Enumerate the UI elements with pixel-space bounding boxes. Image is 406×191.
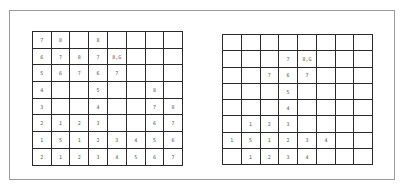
grid-cell: 1 <box>70 132 89 149</box>
grid-cell: 6 <box>89 65 108 82</box>
grid-cell: 3 <box>298 132 317 148</box>
grid-cell <box>223 100 242 116</box>
grid-cell <box>335 35 354 51</box>
grid-cell <box>241 35 260 51</box>
grid-cell <box>223 67 242 83</box>
grid-cell <box>335 51 354 67</box>
grid-cell <box>260 35 279 51</box>
grid-cell: 7 <box>70 65 89 82</box>
grid-row: 21234567 <box>33 148 183 165</box>
grid-cell: 6 <box>164 132 183 149</box>
grid-cell: 4 <box>33 82 52 99</box>
grid-cell <box>260 51 279 67</box>
grid-cell <box>317 149 336 165</box>
grid-cell: 2 <box>260 116 279 132</box>
grid-cell: 3 <box>33 98 52 115</box>
grid-cell: 4 <box>298 149 317 165</box>
grid-cell <box>354 83 373 99</box>
grid-cell <box>354 116 373 132</box>
grid-row: 151234 <box>223 132 373 148</box>
grid-cell <box>51 98 70 115</box>
grid-cell: 6 <box>51 65 70 82</box>
grid-cell <box>354 67 373 83</box>
grid-cell: 7 <box>298 67 317 83</box>
grid-cell: 4 <box>126 132 145 149</box>
grid-row <box>223 35 373 51</box>
grid-cell <box>223 35 242 51</box>
grid-cell: 7 <box>33 32 52 49</box>
grid-cell: 6 <box>145 148 164 165</box>
grid-cell: 1 <box>260 132 279 148</box>
grid-cell: 2 <box>70 115 89 132</box>
grid-cell <box>335 149 354 165</box>
grid-cell <box>241 100 260 116</box>
grid-cell: 6 <box>145 115 164 132</box>
grid-cell: 3 <box>279 149 298 165</box>
grid-cell: 1 <box>51 115 70 132</box>
right-grid: 78,G767541231512341234 <box>222 34 373 165</box>
grid-cell: 5 <box>279 83 298 99</box>
grid-cell <box>354 35 373 51</box>
grid-cell: 4 <box>107 148 126 165</box>
left-grid: 78867878,G567674583478212367151234562123… <box>32 31 183 166</box>
grid-cell <box>126 48 145 65</box>
left-grid-body: 78867878,G567674583478212367151234562123… <box>33 32 183 166</box>
grid-row: 1234 <box>223 149 373 165</box>
grid-cell <box>164 32 183 49</box>
grid-cell <box>126 82 145 99</box>
grid-cell: 8,G <box>107 48 126 65</box>
grid-row: 56767 <box>33 65 183 82</box>
grid-cell <box>223 83 242 99</box>
grid-cell: 3 <box>89 115 108 132</box>
grid-row: 3478 <box>33 98 183 115</box>
grid-cell: 3 <box>89 148 108 165</box>
grid-cell <box>70 98 89 115</box>
grid-cell <box>70 32 89 49</box>
grid-row: 4 <box>223 100 373 116</box>
grid-row: 15123456 <box>33 132 183 149</box>
grid-cell <box>335 67 354 83</box>
grid-cell <box>145 65 164 82</box>
grid-cell: 6 <box>33 48 52 65</box>
grid-cell <box>164 82 183 99</box>
grid-cell <box>107 32 126 49</box>
grid-row: 67878,G <box>33 48 183 65</box>
grid-cell <box>335 100 354 116</box>
grid-cell <box>335 116 354 132</box>
grid-cell: 5 <box>89 82 108 99</box>
grid-cell: 2 <box>33 115 52 132</box>
grid-cell <box>241 83 260 99</box>
grid-cell <box>298 116 317 132</box>
grid-cell: 7 <box>107 65 126 82</box>
grid-row: 767 <box>223 67 373 83</box>
grid-cell <box>317 67 336 83</box>
grid-cell: 7 <box>260 67 279 83</box>
grid-cell <box>354 51 373 67</box>
grid-cell: 7 <box>89 48 108 65</box>
grid-cell: 8,G <box>298 51 317 67</box>
grid-cell <box>354 132 373 148</box>
grid-cell <box>317 100 336 116</box>
grid-cell <box>317 116 336 132</box>
grid-cell <box>164 65 183 82</box>
grid-cell <box>279 35 298 51</box>
grid-cell <box>126 65 145 82</box>
grid-cell: 8 <box>145 82 164 99</box>
grid-row: 458 <box>33 82 183 99</box>
grid-row: 78,G <box>223 51 373 67</box>
grid-cell <box>298 35 317 51</box>
grid-cell <box>354 100 373 116</box>
grid-cell <box>107 98 126 115</box>
grid-cell <box>317 51 336 67</box>
grid-cell: 8 <box>51 32 70 49</box>
grid-cell <box>126 98 145 115</box>
grid-cell: 7 <box>164 148 183 165</box>
grid-cell <box>126 32 145 49</box>
grid-cell: 7 <box>164 115 183 132</box>
grid-cell <box>298 100 317 116</box>
grid-cell: 3 <box>279 116 298 132</box>
grid-cell: 5 <box>51 132 70 149</box>
grid-cell <box>223 51 242 67</box>
grid-cell: 2 <box>33 148 52 165</box>
grid-cell <box>335 132 354 148</box>
